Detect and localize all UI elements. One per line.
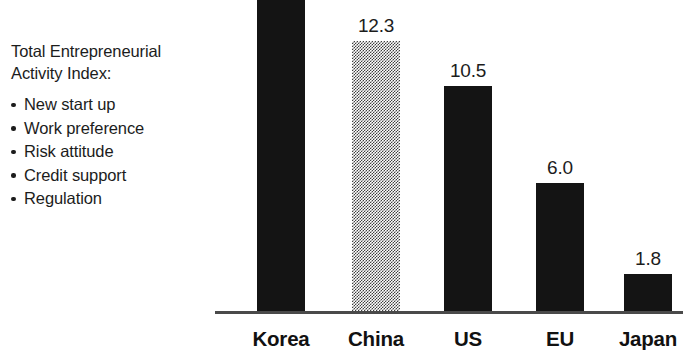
x-axis-label-china: China <box>328 327 424 351</box>
x-axis-label-korea: Korea <box>233 327 329 351</box>
value-label-us: 10.5 <box>433 60 503 82</box>
bar-china <box>352 41 400 312</box>
bar-japan <box>624 274 672 312</box>
value-label-china: 12.3 <box>341 15 411 37</box>
value-label-japan: 1.8 <box>613 248 683 270</box>
value-label-eu: 6.0 <box>525 157 595 179</box>
bar-korea <box>257 0 305 312</box>
bar-us <box>444 86 492 312</box>
x-axis-label-japan: Japan <box>600 327 694 351</box>
x-axis-label-eu: EU <box>512 327 608 351</box>
plot-area: 12.3 10.5 6.0 1.8 Korea China US EU Japa… <box>0 0 694 359</box>
bar-chart-figure: Total Entrepreneurial Activity Index: Ne… <box>0 0 694 359</box>
x-axis-line <box>215 311 683 314</box>
x-axis-label-us: US <box>420 327 516 351</box>
bar-eu <box>536 183 584 312</box>
